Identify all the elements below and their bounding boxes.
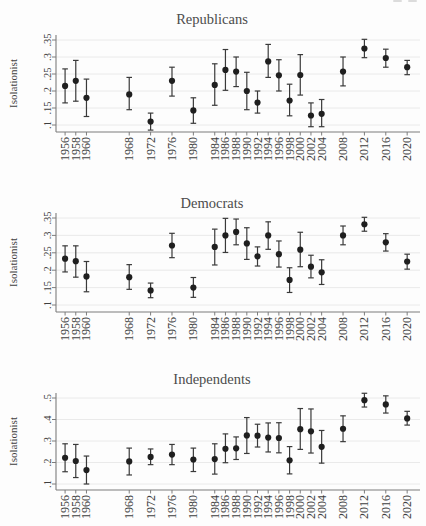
panel-title: Democrats [181,195,244,211]
x-tick-label: 1976 [165,495,179,519]
y-tick-label: .1 [42,480,53,488]
x-tick-label: 2008 [336,317,350,341]
data-point [233,229,239,235]
x-tick-label: 2020 [400,317,414,341]
data-point [83,95,89,101]
data-point [73,458,79,464]
data-point [404,415,410,421]
y-tick-label: .1 [42,301,53,309]
data-point [340,426,346,432]
data-point [361,45,367,51]
x-tick-label: 1976 [165,317,179,341]
x-tick-label: 2004 [315,137,329,161]
y-tick-label: .15 [42,281,53,294]
data-point [73,78,79,84]
data-point [169,451,175,457]
data-point [212,456,218,462]
x-tick-label: 2012 [357,495,371,519]
x-tick-label: 2016 [379,137,393,161]
data-point [73,258,79,264]
x-tick-label: 1972 [144,495,158,519]
data-point [319,444,325,450]
y-tick-label: .4 [42,415,53,424]
data-point [169,78,175,84]
data-point [308,428,314,434]
y-tick-label: .2 [42,266,53,274]
data-point [297,72,303,78]
data-point [265,434,271,440]
y-tick-label: .2 [42,87,53,95]
data-point [83,273,89,279]
y-tick-label: .3 [42,437,53,445]
y-tick-label: .3 [42,53,53,61]
data-point [276,72,282,78]
data-point [383,55,389,61]
data-point [126,91,132,97]
chart-panel-independents: .1.2.3.4.5195619581960196819721976198019… [0,350,426,526]
y-tick-label: .25 [42,246,53,259]
data-point [222,446,228,452]
data-point [297,426,303,432]
data-point [308,112,314,118]
data-point [404,258,410,264]
y-tick-label: .15 [42,101,53,114]
chart-panel-republicans: .1.15.2.25.3.351956195819601968197219761… [0,0,426,175]
data-point [190,107,196,113]
x-tick-label: 2020 [400,137,414,161]
y-tick-label: .2 [42,459,53,467]
data-point [148,119,154,125]
data-point [254,99,260,105]
data-point [83,467,89,473]
data-point [244,240,250,246]
data-point [244,432,250,438]
chart-panel-democrats: .1.15.2.25.3.351956195819601968197219761… [0,175,426,350]
data-point [383,239,389,245]
x-tick-label: 2008 [336,495,350,519]
data-point [212,82,218,88]
data-point [62,256,68,262]
y-tick-label: .35 [42,33,53,46]
x-tick-label: 2016 [379,495,393,519]
data-point [286,97,292,103]
data-point [148,287,154,293]
data-point [297,247,303,253]
data-point [244,88,250,94]
data-point [62,455,68,461]
data-point [265,58,271,64]
data-point [126,458,132,464]
data-point [62,83,68,89]
x-tick-label: 1972 [144,317,158,341]
independents-chart: .1.2.3.4.5195619581960196819721976198019… [0,350,426,526]
x-tick-label: 1980 [186,317,200,341]
data-point [222,67,228,73]
data-point [308,264,314,270]
y-tick-label: .1 [42,121,53,129]
data-point [222,232,228,238]
x-tick-label: 2012 [357,137,371,161]
panel-title: Republicans [176,11,248,27]
data-point [361,221,367,227]
democrats-chart: .1.15.2.25.3.351956195819601968197219761… [0,175,426,350]
data-point [276,251,282,257]
data-point [361,397,367,403]
data-point [286,457,292,463]
x-tick-label: 2012 [357,317,371,341]
data-point [276,435,282,441]
x-tick-label: 1960 [79,317,93,341]
x-tick-label: 2020 [400,495,414,519]
x-tick-label: 2004 [315,495,329,519]
x-tick-label: 2008 [336,137,350,161]
data-point [254,253,260,259]
data-point [212,244,218,250]
data-point [319,269,325,275]
data-point [148,454,154,460]
x-tick-label: 2016 [379,317,393,341]
data-point [340,232,346,238]
data-point [126,274,132,280]
data-point [319,111,325,117]
data-point [265,232,271,238]
data-point [233,445,239,451]
isolationism-by-party-figure: .1.15.2.25.3.351956195819601968197219761… [0,0,426,526]
x-tick-label: 1972 [144,137,158,161]
data-point [190,456,196,462]
